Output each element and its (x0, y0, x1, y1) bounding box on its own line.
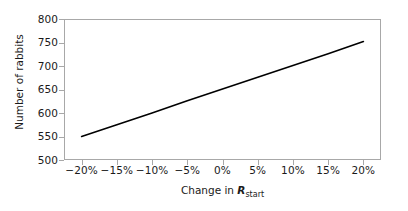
chart-figure: 500550600650700750800 −20%−15%−10%−5%0%5… (0, 0, 408, 211)
y-axis-ticks (59, 20, 64, 161)
x-axis-title-prefix: Change in (181, 184, 237, 196)
y-axis-title: Number of rabbits (13, 17, 25, 147)
x-axis-title-subscript: start (245, 190, 264, 199)
chart-canvas (0, 0, 408, 211)
y-axis-tick-label: 500 (12, 155, 58, 166)
x-axis-tick-labels: −20%−15%−10%−5%0%5%10%15%20% (0, 165, 408, 179)
data-series-line (82, 42, 364, 137)
x-axis-title: Change in Rstart (64, 184, 381, 196)
x-axis-tick-label: 20% (340, 165, 386, 176)
